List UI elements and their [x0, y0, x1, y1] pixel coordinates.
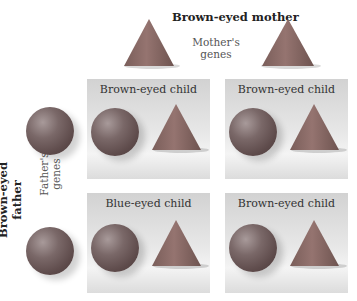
offspring-panel-4: Brown-eyed child	[225, 193, 348, 293]
cone-gene	[149, 102, 209, 158]
sphere-gene	[229, 224, 277, 272]
sphere-gene	[91, 108, 139, 156]
sphere-gene	[91, 224, 139, 272]
panel-label: Blue-eyed child	[87, 197, 210, 210]
offspring-panel-2: Brown-eyed child	[225, 79, 348, 179]
father-title: Brown-eyed father	[0, 145, 24, 255]
offspring-panel-3: Blue-eyed child	[87, 193, 210, 293]
cone-gene	[287, 102, 347, 158]
father-sphere-2	[26, 227, 74, 275]
offspring-panel-1: Brown-eyed child	[87, 79, 210, 179]
mother-cone-2	[257, 17, 321, 74]
father-sphere-1	[26, 107, 74, 155]
cone-gene	[287, 218, 347, 274]
mother-genes-label: Mother's genes	[186, 36, 246, 60]
panel-label: Brown-eyed child	[225, 197, 348, 210]
panel-label: Brown-eyed child	[87, 83, 210, 96]
sphere-gene	[229, 108, 277, 156]
panel-label: Brown-eyed child	[225, 83, 348, 96]
cone-gene	[149, 218, 209, 274]
mother-cone-1	[120, 17, 180, 74]
